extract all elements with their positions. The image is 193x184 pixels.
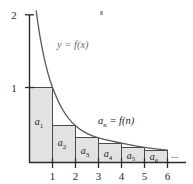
x-tick-label-5: 5	[142, 170, 148, 182]
y-tick-label-1: 1	[11, 82, 17, 94]
continuation-ellipsis: ...	[171, 149, 179, 160]
x-tick-label-6: 6	[165, 170, 171, 182]
sequence-label: an = f(n)	[98, 115, 135, 129]
x-tick-label-3: 3	[96, 170, 102, 182]
curve-label: y = f(x)	[56, 39, 89, 51]
x-tick-label-1: 1	[50, 170, 56, 182]
x-tick-label-4: 4	[119, 170, 125, 182]
scan-artifact-mark	[100, 11, 103, 15]
riemann-sum-figure: 2 1 1 2 3 4 5 6 a1 a2 a3 a4 a5	[0, 0, 193, 184]
x-tick-label-2: 2	[73, 170, 79, 182]
y-tick-label-2: 2	[11, 9, 17, 21]
